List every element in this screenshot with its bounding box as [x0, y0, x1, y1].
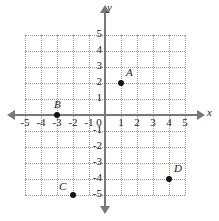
data-point-label: C	[59, 180, 66, 192]
y-tick-label: 4	[84, 43, 102, 55]
y-axis	[104, 12, 106, 208]
data-point	[118, 80, 124, 86]
y-tick-label: 3	[84, 59, 102, 71]
y-axis-label: y	[107, 1, 112, 13]
data-point	[54, 112, 60, 118]
data-point	[70, 192, 76, 198]
y-tick-label: -1	[84, 123, 102, 135]
x-axis-label: x	[207, 106, 212, 118]
y-tick-label: -3	[84, 155, 102, 167]
x-tick-label: 5	[176, 116, 194, 128]
x-axis-arrow-left-icon	[7, 110, 15, 120]
y-tick-label: 2	[84, 75, 102, 87]
y-tick-label: -5	[84, 187, 102, 199]
y-tick-label: 1	[84, 91, 102, 103]
y-tick-label: -4	[84, 171, 102, 183]
data-point	[166, 176, 172, 182]
data-point-label: D	[174, 162, 182, 174]
y-tick-label: -2	[84, 139, 102, 151]
x-axis-arrow-right-icon	[197, 110, 205, 120]
y-axis-arrow-down-icon	[100, 206, 110, 214]
y-tick-label: 5	[84, 27, 102, 39]
coordinate-plane: y x -5 -4 -3 -2 -1 1 2 3 4 5 0 5 4 3 2 1…	[0, 0, 219, 221]
data-point-label: A	[126, 66, 133, 78]
data-point-label: B	[54, 98, 61, 110]
